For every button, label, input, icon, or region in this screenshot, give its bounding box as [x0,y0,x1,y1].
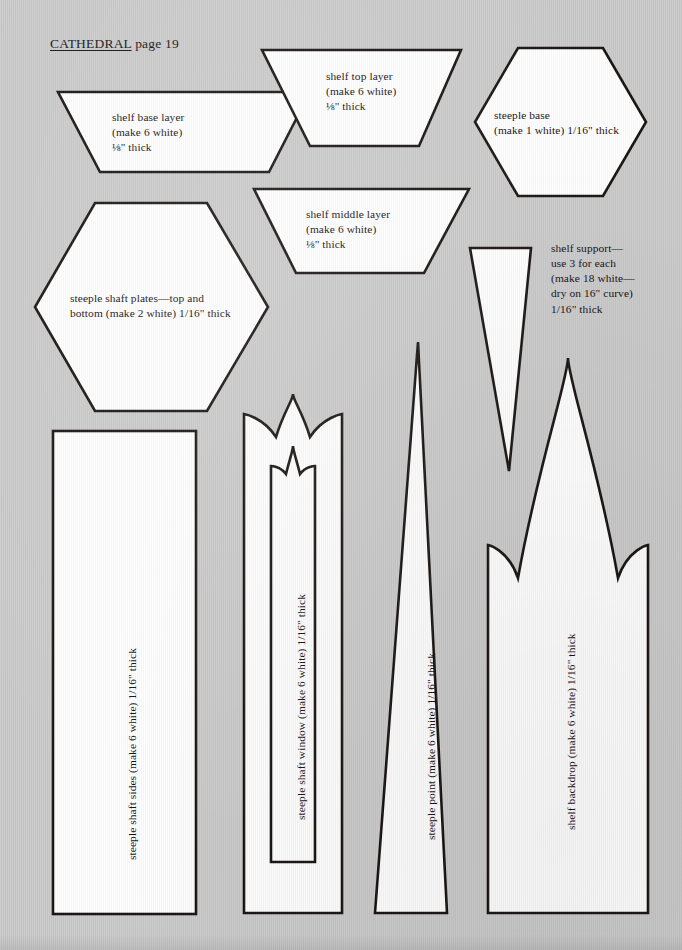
label-steeple-point: steeple point (make 6 white) 1/16" thick [424,653,439,840]
shape-shelf-support [470,248,531,471]
label-steeple-shaft-plates: steeple shaft plates—top and bottom (mak… [70,291,231,321]
book-title: CATHEDRAL [50,36,132,51]
label-steeple-shaft-window: steeple shaft window (make 6 white) 1/16… [294,594,309,820]
label-shelf-middle-layer: shelf middle layer (make 6 white) ⅛" thi… [306,207,390,252]
label-shelf-backdrop: shelf backdrop (make 6 white) 1/16" thic… [564,633,579,830]
label-steeple-base: steeple base (make 1 white) 1/16" thick [494,108,619,138]
page-header: CATHEDRAL page 19 [50,36,179,52]
page-number-label: page 19 [132,36,179,51]
pattern-shapes [0,0,682,950]
label-steeple-shaft-sides: steeple shaft sides (make 6 white) 1/16"… [125,648,140,860]
label-shelf-base-layer: shelf base layer (make 6 white) ⅛" thick [112,110,184,155]
label-shelf-top-layer: shelf top layer (make 6 white) ⅛" thick [326,69,396,114]
pattern-sheet-page: CATHEDRAL page 19 shelf base layer (make… [0,0,682,950]
label-shelf-support: shelf support— use 3 for each (make 18 w… [551,241,635,317]
